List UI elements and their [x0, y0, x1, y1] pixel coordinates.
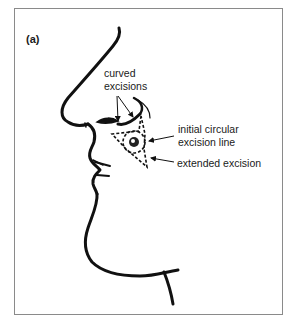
curved-excisions-label-line1: curved [104, 67, 136, 79]
panel-label: (a) [26, 33, 39, 45]
extended-excision-label: extended excision [177, 157, 261, 169]
initial-circular-label-line2: excision line [178, 136, 235, 148]
curved-excisions-pointers [117, 96, 133, 121]
label-pointers [149, 136, 174, 162]
curved-excisions-label-line2: excisions [104, 80, 147, 92]
initial-circular-label-line1: initial circular [178, 123, 239, 135]
initial-circular-excision [123, 131, 145, 153]
